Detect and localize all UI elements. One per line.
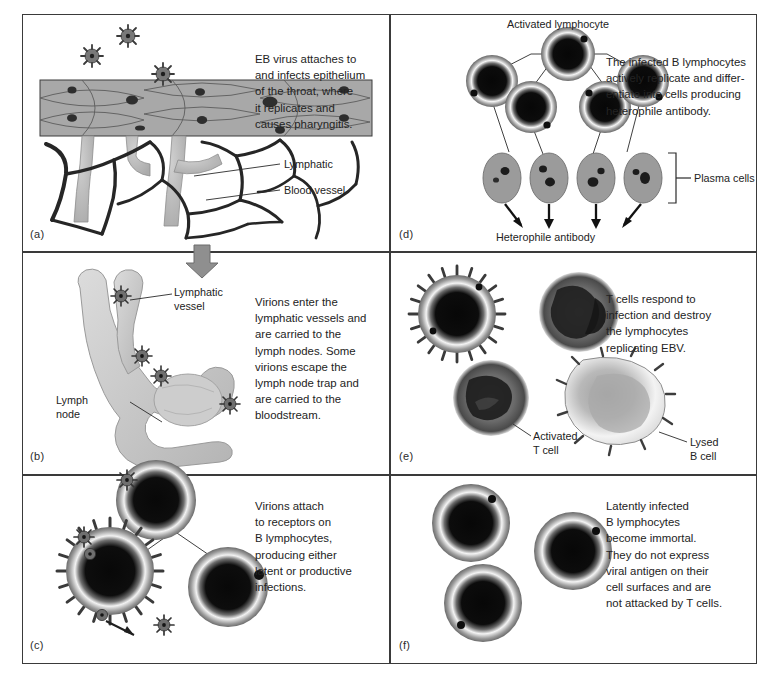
- panel-label-d: (d): [399, 228, 413, 240]
- b-lymphocyte-top: [116, 460, 196, 540]
- panel-b: Lymphatic vessel Lymph node Virions ente…: [22, 252, 389, 474]
- panel-label-c: (c): [30, 639, 44, 651]
- caption-d: The infected B lymphocytes actively repl…: [606, 54, 758, 119]
- label-activated-lymphocyte: Activated lymphocyte: [507, 17, 609, 31]
- plasma-cell-2: [530, 153, 568, 203]
- activated-lymphocyte-cell: [541, 27, 595, 81]
- daughter-lymphocyte-2: [505, 81, 557, 133]
- panel-e: Activated T cell Lysed B cell T cells re…: [391, 252, 757, 474]
- virion-group: [81, 25, 174, 85]
- caption-f: Latently infected B lymphocytes become i…: [606, 498, 756, 611]
- panel-label-b: (b): [30, 450, 44, 462]
- antibody-arrows: [505, 204, 641, 226]
- label-heterophile-antibody: Heterophile antibody: [496, 230, 595, 244]
- label-activated-t-cell: Activated T cell: [533, 429, 577, 457]
- panel-d: Activated lymphocyte Plasma cells Hetero…: [391, 14, 757, 251]
- figure-ebv-pathogenesis: Lymphatic Blood vessel EB virus attaches…: [0, 0, 779, 678]
- latent-b-cell-1: [432, 484, 510, 562]
- activated-t-cell: [453, 360, 529, 436]
- label-lymph-node: Lymph node: [56, 393, 88, 421]
- plasma-cell-4: [624, 153, 662, 203]
- caption-c: Virions attach to receptors on B lymphoc…: [255, 498, 397, 595]
- caption-a: EB virus attaches to and infects epithel…: [255, 51, 395, 132]
- budding-arrow: [106, 621, 134, 635]
- infected-b-cell: [409, 266, 505, 362]
- panel-c: Virions attach to receptors on B lymphoc…: [22, 475, 389, 664]
- latent-b-cell-3: [444, 564, 522, 642]
- panel-f: Latently infected B lymphocytes become i…: [391, 475, 757, 664]
- panel-label-e: (e): [399, 450, 413, 462]
- label-lysed-b-cell: Lysed B cell: [690, 435, 718, 463]
- panel-a: Lymphatic Blood vessel EB virus attaches…: [22, 14, 389, 251]
- label-lymphatic-vessel: Lymphatic vessel: [174, 285, 223, 313]
- label-lymphatic: Lymphatic: [284, 157, 333, 171]
- panel-label-a: (a): [30, 228, 44, 240]
- panel-d-graphic: [391, 14, 757, 251]
- plasma-cell-1: [483, 153, 521, 203]
- label-plasma-cells: Plasma cells: [694, 171, 755, 185]
- plasma-cell-3: [577, 153, 615, 203]
- panel-label-f: (f): [399, 639, 410, 651]
- caption-b: Virions enter the lymphatic vessels and …: [255, 294, 397, 424]
- panel-a-graphic: [22, 14, 389, 251]
- label-blood-vessel: Blood vessel: [284, 183, 345, 197]
- caption-e: T cells respond to infection and destroy…: [606, 291, 756, 356]
- latent-b-cell-2: [534, 512, 612, 590]
